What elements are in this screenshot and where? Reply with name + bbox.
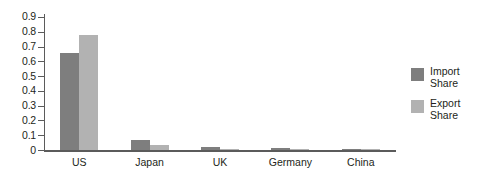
y-tick-label-text: 0.5 [0,71,36,82]
y-tick-mark [38,76,45,77]
y-tick-label: 0.5 [0,71,36,82]
legend-swatch-export-icon [411,100,424,113]
bar-japan-import [131,140,150,150]
legend-item-export-share: Export Share [411,98,485,121]
y-tick-label: 0.2 [0,115,36,126]
y-tick-mark [38,150,45,151]
y-tick-label-text: 0 [0,145,36,156]
y-tick-mark [38,91,45,92]
x-label-uk: UK [180,156,260,168]
x-label-japan: Japan [110,156,190,168]
y-tick-mark [38,32,45,33]
y-tick-label-text: 0.9 [0,11,36,22]
chart-legend: Import Share Export Share [411,66,485,130]
y-tick-mark [38,17,45,18]
legend-label-export-share: Export Share [430,98,460,121]
bar-chart: 00.10.20.30.40.50.60.70.80.9 USJapanUKGe… [0,0,488,186]
x-axis-line [44,150,396,152]
legend-swatch-import-icon [411,68,424,81]
bar-us-export [79,35,98,150]
y-tick-label: 0.8 [0,26,36,37]
y-tick-label: 0 [0,145,36,156]
y-tick-label-text: 0.4 [0,85,36,96]
y-tick-label-text: 0.6 [0,56,36,67]
legend-item-import-share: Import Share [411,66,485,89]
legend-label-export-line1: Export [430,98,460,110]
y-axis-line [44,14,45,151]
y-tick-label-text: 0.7 [0,41,36,52]
y-tick-label: 0.9 [0,11,36,22]
legend-label-export-line2: Share [430,110,460,122]
y-tick-label-text: 0.3 [0,100,36,111]
y-tick-label: 0.6 [0,56,36,67]
bar-uk-import [201,147,220,150]
y-tick-mark [38,106,45,107]
bar-china-export [361,149,380,150]
bar-us-import [60,53,79,150]
bar-china-import [342,149,361,150]
y-tick-label-text: 0.2 [0,115,36,126]
y-tick-mark [38,120,45,121]
x-label-germany: Germany [250,156,330,168]
y-tick-label-text: 0.1 [0,130,36,141]
x-label-us: US [39,156,119,168]
bar-germany-import [271,148,290,150]
y-tick-mark [38,135,45,136]
legend-label-import-line1: Import [430,66,460,78]
y-tick-mark [38,47,45,48]
y-tick-label: 0.7 [0,41,36,52]
y-tick-label: 0.4 [0,85,36,96]
y-tick-label-text: 0.8 [0,26,36,37]
bar-uk-export [220,149,239,150]
y-tick-label: 0.3 [0,100,36,111]
y-tick-label: 0.1 [0,130,36,141]
y-tick-mark [38,61,45,62]
bar-germany-export [290,149,309,150]
legend-label-import-line2: Share [430,78,460,90]
legend-label-import-share: Import Share [430,66,460,89]
x-label-china: China [321,156,401,168]
bar-japan-export [150,145,169,150]
